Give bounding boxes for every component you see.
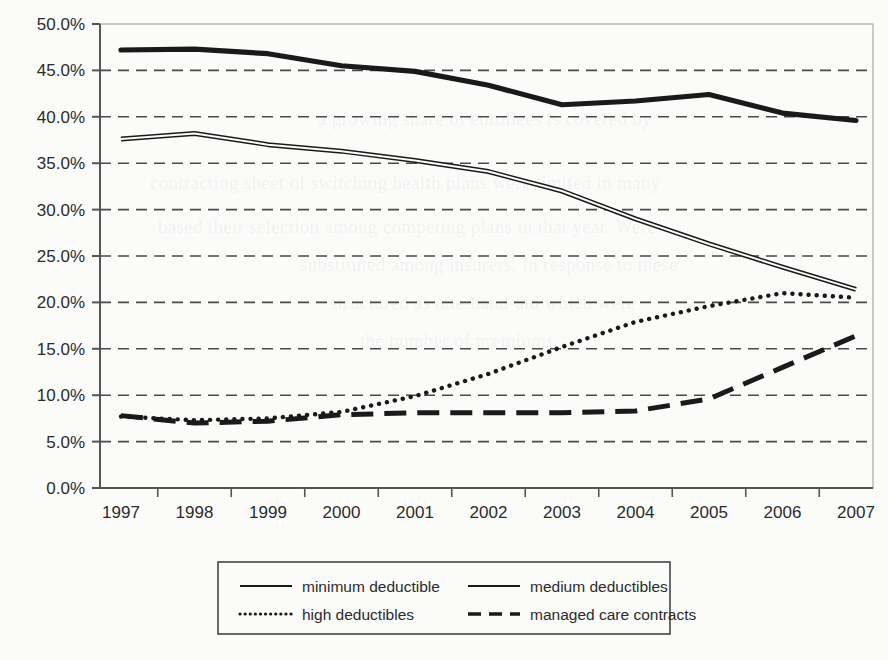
x-tick-label: 2002 [470, 503, 508, 522]
x-tick-label: 2003 [543, 503, 581, 522]
x-tick-label: 1999 [249, 503, 287, 522]
x-tick-label: 2000 [323, 503, 361, 522]
x-tick-label: 1997 [102, 503, 140, 522]
y-tick-label: 30.0% [37, 201, 85, 220]
legend-label: medium deductibles [530, 578, 668, 595]
series-medium-deductibles [121, 134, 856, 290]
line-chart: 0.0%5.0%10.0%15.0%20.0%25.0%30.0%35.0%40… [0, 0, 888, 660]
x-tick-label: 1998 [176, 503, 214, 522]
y-tick-label: 50.0% [37, 15, 85, 34]
x-axis: 1997199819992000200120022003200420052006… [102, 488, 875, 522]
y-tick-label: 25.0% [37, 247, 85, 266]
x-tick-label: 2006 [764, 503, 802, 522]
x-tick-label: 2005 [690, 503, 728, 522]
y-tick-label: 35.0% [37, 154, 85, 173]
legend-label: high deductibles [302, 606, 414, 623]
y-tick-label: 10.0% [37, 386, 85, 405]
legend-label: minimum deductible [302, 578, 440, 595]
x-tick-label: 2004 [617, 503, 655, 522]
series-minimum-deductible [121, 49, 856, 120]
chart-container: a growing share of enrollees is covered … [0, 0, 888, 660]
x-tick-label: 2007 [837, 503, 875, 522]
series-layer [121, 49, 856, 423]
legend-item-medium-deductibles[interactable]: medium deductibles [468, 578, 668, 595]
y-tick-label: 40.0% [37, 108, 85, 127]
y-tick-label: 15.0% [37, 340, 85, 359]
x-tick-label: 2001 [396, 503, 434, 522]
y-axis: 0.0%5.0%10.0%15.0%20.0%25.0%30.0%35.0%40… [37, 15, 100, 498]
chart-legend: minimum deductiblemedium deductibleshigh… [218, 562, 697, 634]
legend-item-high-deductibles[interactable]: high deductibles [240, 606, 414, 623]
y-tick-label: 20.0% [37, 293, 85, 312]
gridlines [100, 70, 873, 441]
series-high-deductibles [121, 293, 856, 420]
y-tick-label: 5.0% [46, 433, 85, 452]
legend-label: managed care contracts [530, 606, 697, 623]
legend-item-managed-care-contracts[interactable]: managed care contracts [468, 606, 697, 623]
y-tick-label: 0.0% [46, 479, 85, 498]
y-tick-label: 45.0% [37, 61, 85, 80]
legend-item-minimum-deductible[interactable]: minimum deductible [240, 578, 440, 595]
